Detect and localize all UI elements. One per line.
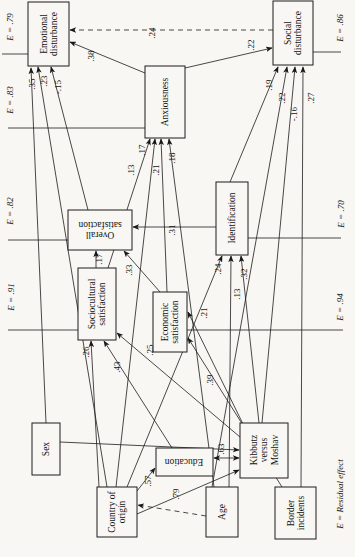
- path-age-country-dashed: [138, 505, 206, 516]
- residual-sociocultural: E = .91: [6, 283, 16, 310]
- coef-social-emotional: .24: [147, 27, 157, 38]
- label-identification: Identification: [227, 182, 237, 255]
- path-country-sociocultural: [91, 341, 99, 487]
- coef-kibbutz-social: -.16: [289, 107, 299, 121]
- label-age: Age: [217, 487, 227, 537]
- coef-age-social: .22: [277, 92, 287, 103]
- path-diagram: Emotional disturbance Social disturbance…: [0, 0, 355, 557]
- path-country-anxiousness: [116, 139, 155, 487]
- label-sex: Sex: [41, 423, 51, 475]
- coef-kibbutz-identification: .32: [239, 268, 249, 279]
- coef-kibbutz-sociocultural: .25: [145, 344, 155, 355]
- label-border-incidents: Border incidents: [285, 487, 306, 539]
- coef-anxiousness-social: .22: [246, 39, 256, 50]
- coef-identification-social: .19: [264, 79, 274, 90]
- coef-education-sociocultural: .43: [112, 361, 122, 372]
- coef-sociocultural-anxiousness: .13: [126, 164, 136, 175]
- label-education: Education: [156, 457, 213, 467]
- path-anxiousness-emotional: [70, 42, 145, 73]
- label-kibbutz-versus-moshav: Kibbutz versus Moshav: [249, 423, 280, 478]
- coef-age-anxiousness: .18: [167, 152, 177, 163]
- path-kibbutz-identification: [241, 256, 259, 423]
- path-sex-emotional: [31, 68, 46, 423]
- residual-economic: E = .94: [335, 293, 345, 320]
- path-border-social: [301, 67, 303, 487]
- residual-identification: E = .70: [336, 200, 346, 227]
- path-age-identification: [229, 256, 231, 487]
- coef-age-country: .79: [171, 488, 181, 499]
- coef-border-social: .27: [306, 92, 316, 103]
- residual-note: E = Residual effect: [335, 459, 345, 528]
- label-anxiousness: Anxiousness: [160, 66, 170, 138]
- coef-economic-overall: .33: [124, 264, 134, 275]
- coef-country-sociocultural: .26: [81, 346, 91, 357]
- residual-anxiousness: E = .83: [5, 86, 15, 113]
- path-education-sociocultural: [104, 341, 172, 448]
- label-social-disturbance: Social disturbance: [283, 1, 304, 65]
- residual-social: E = .86: [335, 14, 345, 41]
- label-economic-satisfaction: Economic satisfaction: [160, 292, 181, 352]
- coef-country-anxiousness: .17: [137, 144, 147, 155]
- label-country-of-origin: Country of origin: [107, 487, 128, 537]
- coef-overall-emotional: -.15: [53, 80, 63, 94]
- path-kibbutz-economic: [188, 312, 243, 424]
- coef-country-identification: .24: [213, 263, 223, 274]
- coef-border-economic: .39: [205, 374, 215, 385]
- label-emotional-disturbance: Emotional disturbance: [38, 2, 59, 66]
- label-overall-satisfaction: Overall satisfaction: [70, 220, 130, 241]
- coef-country-emotional: .23: [39, 75, 49, 86]
- residual-emotional: E = .79: [5, 13, 15, 40]
- path-anxiousness-social: [185, 48, 272, 68]
- coef-economic-anxiousness: .21: [151, 164, 161, 175]
- residual-overall: E = .82: [5, 197, 15, 224]
- coef-sociocultural-overall: .17: [94, 253, 104, 264]
- coef-education-kibbutz: .63: [216, 443, 226, 454]
- label-sociocultural-satisfaction: Sociocultural satisfaction: [87, 268, 108, 340]
- coef-identification-overall: .31: [167, 224, 177, 235]
- coef-sex-emotional: .35: [27, 78, 37, 89]
- coef-country-education: .57: [143, 475, 153, 486]
- coef-kibbutz-economic: .21: [199, 307, 209, 318]
- coef-age-identification: .13: [232, 288, 242, 299]
- coef-anxiousness-emotional: .38: [86, 50, 96, 61]
